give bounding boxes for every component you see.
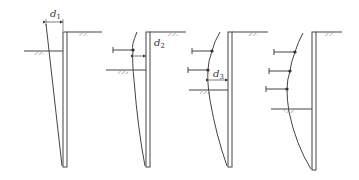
panel-2 [106, 32, 186, 167]
deflection-curve [208, 32, 227, 166]
soil-hatch [324, 33, 334, 36]
deflection-curve [287, 33, 311, 169]
label-d3: d3 [213, 68, 224, 81]
retaining-wall [312, 32, 316, 170]
panel-4 [266, 32, 342, 170]
retaining-wall [228, 32, 232, 167]
label-d2: d2 [154, 37, 165, 50]
panel-1 [24, 19, 102, 167]
retaining-wall [146, 32, 150, 167]
panel-3 [188, 32, 268, 167]
wall-deflection-diagram: d1 d2 d3 [0, 0, 359, 180]
soil-hatch [248, 33, 258, 36]
retaining-wall [63, 32, 67, 167]
soil-hatch [34, 52, 44, 55]
soil-hatch [168, 33, 178, 36]
label-d1: d1 [50, 8, 61, 21]
soil-hatch [78, 33, 88, 36]
deflection-curve [133, 32, 146, 166]
soil-hatch [118, 71, 128, 74]
deflection-curve [46, 24, 62, 166]
